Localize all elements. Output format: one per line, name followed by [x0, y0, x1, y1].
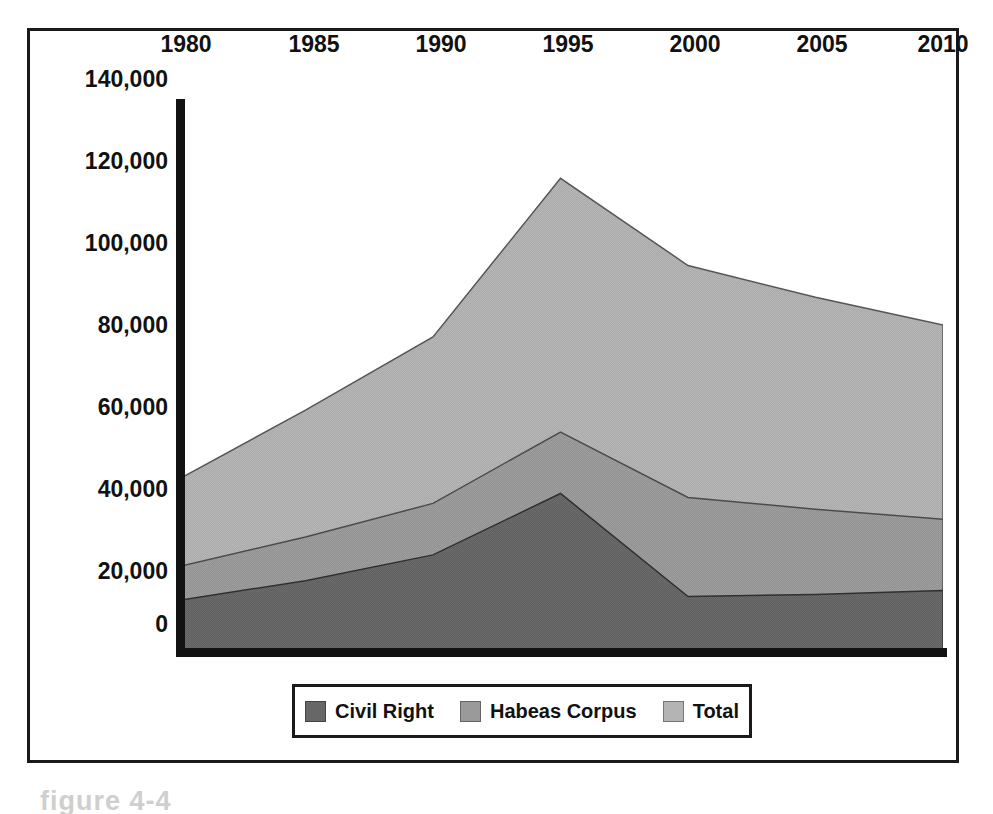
legend-label-habeas-corpus: Habeas Corpus	[490, 700, 637, 723]
legend-item-habeas-corpus[interactable]: Habeas Corpus	[460, 700, 637, 723]
x-tick-label-1995: 1995	[520, 31, 616, 58]
chart-legend: Civil Right Habeas Corpus Total	[292, 684, 752, 738]
x-tick-label-2010: 2010	[895, 31, 991, 58]
x-tick-label-1980: 1980	[138, 31, 234, 58]
legend-swatch-icon-total	[663, 701, 684, 722]
x-tick-label-1990: 1990	[393, 31, 489, 58]
legend-label-civil-right: Civil Right	[335, 700, 434, 723]
x-tick-label-1985: 1985	[266, 31, 362, 58]
legend-label-total: Total	[693, 700, 739, 723]
legend-item-total[interactable]: Total	[663, 700, 739, 723]
chart-frame: 140,000 120,000 100,000 80,000 60,000 40…	[27, 28, 959, 763]
legend-swatch-icon-habeas-corpus	[460, 701, 481, 722]
legend-item-civil-right[interactable]: Civil Right	[305, 700, 434, 723]
figure-caption: figure 4-4	[40, 786, 172, 814]
x-axis-tick-labels: 1980 1985 1990 1995 2000 2005 2010	[30, 31, 962, 766]
x-tick-label-2005: 2005	[774, 31, 870, 58]
legend-swatch-icon-civil-right	[305, 701, 326, 722]
x-tick-label-2000: 2000	[647, 31, 743, 58]
